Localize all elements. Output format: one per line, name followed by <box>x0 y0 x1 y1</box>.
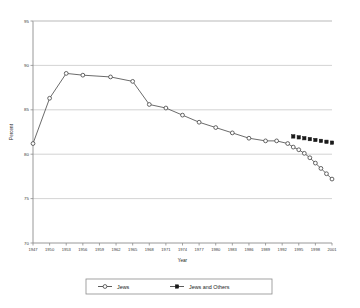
chart-container: 7075808590951947195019531956195919621965… <box>0 0 360 308</box>
x-tick-label: 1983 <box>228 247 238 252</box>
legend-marker-jews-and-others <box>175 285 178 288</box>
data-point <box>264 139 268 143</box>
data-point <box>197 120 201 124</box>
x-tick-label: 1947 <box>28 247 38 252</box>
x-tick-label: 1995 <box>294 247 304 252</box>
x-axis-title: Year <box>178 258 188 263</box>
line-chart: 7075808590951947195019531956195919621965… <box>0 0 360 308</box>
data-point <box>64 71 68 75</box>
data-point <box>214 126 218 130</box>
data-point <box>319 167 323 171</box>
y-tick-label: 80 <box>24 152 29 157</box>
y-tick-label: 95 <box>24 19 29 24</box>
x-tick-label: 1950 <box>45 247 55 252</box>
x-tick-label: 1965 <box>128 247 138 252</box>
data-point <box>292 135 295 138</box>
legend-marker-jews <box>103 285 107 289</box>
x-tick-label: 1992 <box>278 247 288 252</box>
data-point <box>297 136 300 139</box>
y-axis-title: Percent <box>9 123 14 140</box>
data-point <box>181 113 185 117</box>
y-tick-label: 75 <box>24 196 29 201</box>
data-point <box>230 131 234 135</box>
data-point <box>275 139 279 143</box>
data-point <box>313 161 317 165</box>
series-line-0 <box>33 73 332 179</box>
legend-label-jews: Jews <box>117 284 130 290</box>
legend-label-jews-and-others: Jews and Others <box>189 284 230 290</box>
y-tick-label: 90 <box>24 63 29 68</box>
x-tick-label: 1959 <box>95 247 105 252</box>
x-tick-label: 1980 <box>211 247 221 252</box>
data-point <box>131 79 135 83</box>
data-point <box>147 103 151 107</box>
x-tick-label: 1956 <box>78 247 88 252</box>
data-point <box>81 73 85 77</box>
data-point <box>314 138 317 141</box>
data-point <box>308 137 311 140</box>
data-point <box>303 137 306 140</box>
data-point <box>297 148 301 152</box>
x-tick-label: 1962 <box>112 247 122 252</box>
data-point <box>286 142 290 146</box>
x-tick-label: 1974 <box>178 247 188 252</box>
data-point <box>164 106 168 110</box>
data-point <box>31 142 35 146</box>
x-tick-label: 1977 <box>195 247 205 252</box>
data-point <box>319 139 322 142</box>
x-tick-label: 1953 <box>62 247 72 252</box>
x-tick-label: 1989 <box>261 247 271 252</box>
data-point <box>325 172 329 176</box>
data-point <box>291 145 295 149</box>
data-point <box>330 177 334 181</box>
data-point <box>308 156 312 160</box>
x-tick-label: 1971 <box>161 247 171 252</box>
data-point <box>247 136 251 140</box>
data-point <box>109 75 113 79</box>
data-point <box>325 140 328 143</box>
data-point <box>302 151 306 155</box>
y-tick-label: 85 <box>24 107 29 112</box>
x-tick-label: 1986 <box>244 247 254 252</box>
data-point <box>330 141 333 144</box>
x-tick-label: 2001 <box>327 247 337 252</box>
data-point <box>48 96 52 100</box>
x-tick-label: 1968 <box>145 247 155 252</box>
y-tick-label: 70 <box>24 241 29 246</box>
x-tick-label: 1998 <box>311 247 321 252</box>
